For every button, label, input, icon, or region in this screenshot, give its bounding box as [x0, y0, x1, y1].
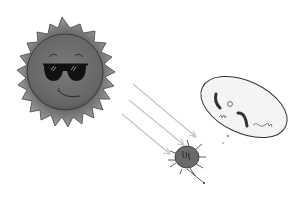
bacterium-icon: [168, 140, 206, 184]
thought-dot-icon: [227, 135, 229, 137]
light-rays-icon: [122, 84, 196, 154]
sun-face: [27, 34, 103, 110]
illustration: [0, 0, 299, 198]
thought-bubble: [191, 64, 296, 150]
